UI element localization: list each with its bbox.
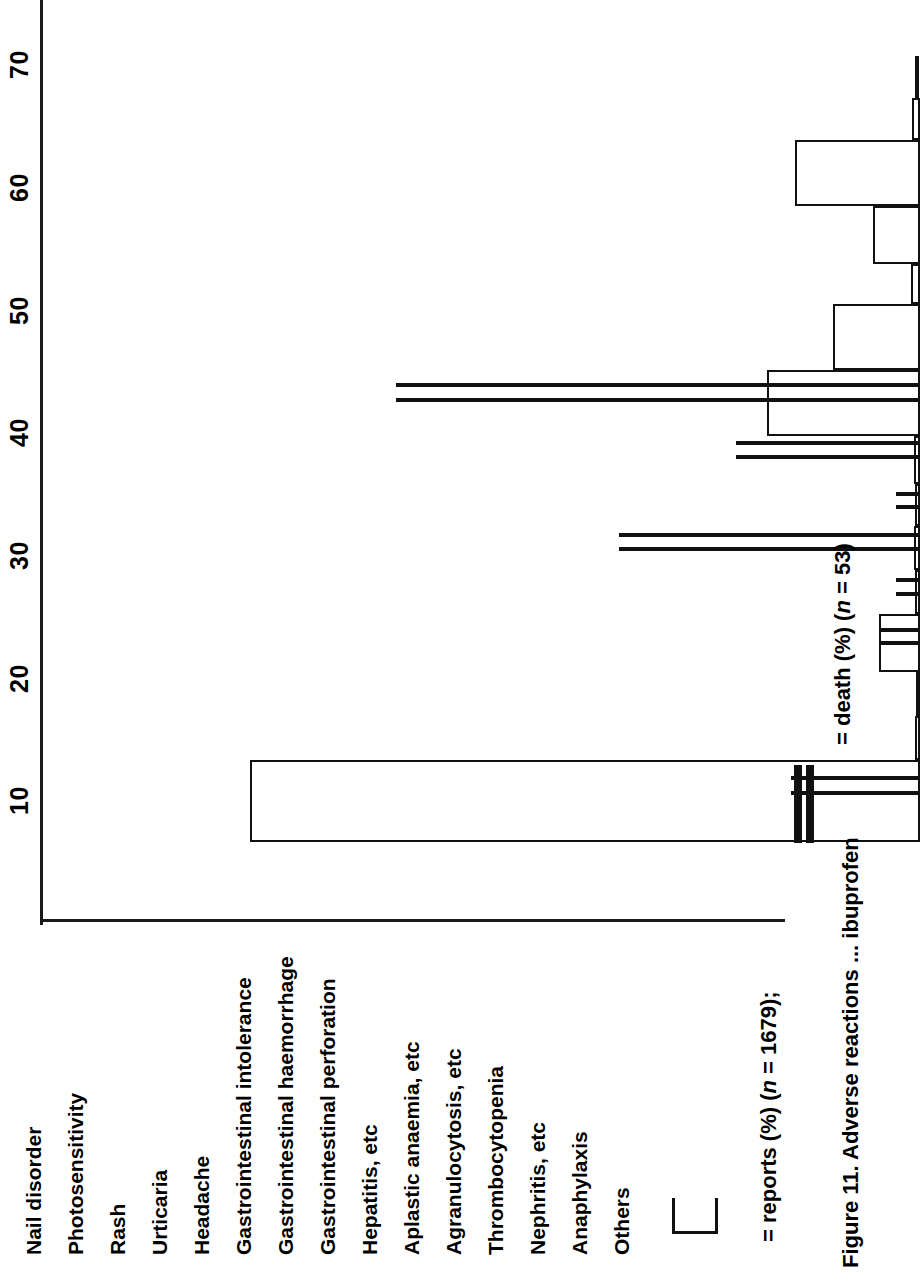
category-label-headache: Headache [190, 1156, 214, 1255]
bar-report-gi-intolerance [833, 304, 920, 370]
bar-report-photosensitivity [912, 98, 920, 140]
legend-reports-suffix: = 1679); [756, 991, 781, 1080]
category-label-hepatitis: Hepatitis, etc [358, 1124, 382, 1255]
bar-death-aplastic-anaemia [619, 533, 920, 537]
category-label-nephritis: Nephritis, etc [526, 1122, 550, 1255]
bar-death-hepatitis [896, 492, 920, 496]
category-label-aplastic-anaemia: Aplastic anaemia, etc [400, 1041, 424, 1255]
category-label-gi-intolerance: Gastrointestinal intolerance [232, 977, 256, 1255]
category-label-gi-haemorrhage: Gastrointestinal haemorrhage [274, 956, 298, 1255]
legend-label-reports: = reports (%) (n = 1679); [756, 991, 782, 1242]
bar-death-agranulocytosis-2 [896, 592, 920, 596]
figure-caption-text: Adverse reactions ... ibuprofen [838, 837, 863, 1160]
bar-death-gi-perforation-2 [736, 455, 920, 459]
bar-report-anaphylaxis [915, 716, 920, 760]
legend-death-n-italic: n [830, 600, 855, 613]
category-label-gi-perforation: Gastrointestinal perforation [316, 978, 340, 1255]
bar-report-urticaria [873, 206, 920, 264]
figure-caption-label: Figure 11. [838, 1165, 863, 1268]
bar-death-aplastic-anaemia-2 [619, 547, 920, 551]
category-label-rash: Rash [106, 1204, 130, 1255]
legend-marker-reports-icon [672, 1198, 718, 1234]
legend-label-death: = death (%) (n = 53) [830, 543, 856, 745]
category-label-others: Others [610, 1187, 634, 1255]
bar-report-headache [911, 264, 920, 304]
legend-reports-prefix: = reports (%) ( [756, 1093, 781, 1242]
bar-death-thrombocytopenia-2 [879, 641, 920, 645]
legend-death-suffix: = 53) [830, 543, 855, 600]
bar-death-gi-haemorrhage-2 [396, 398, 920, 402]
bar-death-thrombocytopenia [879, 628, 920, 632]
bar-death-agranulocytosis [896, 578, 920, 582]
category-label-nail-disorder: Nail disorder [22, 1127, 46, 1255]
bar-death-gi-haemorrhage [396, 383, 920, 387]
bar-death-gi-perforation [736, 441, 920, 445]
bar-report-rash [795, 140, 920, 206]
bar-report-nail-disorder [915, 56, 919, 98]
bar-death-hepatitis-2 [896, 505, 920, 509]
legend-death-prefix: = death (%) ( [830, 614, 855, 745]
legend-marker-death-icon [794, 765, 802, 843]
legend-marker-death-icon-2 [806, 765, 814, 843]
category-label-urticaria: Urticaria [148, 1170, 172, 1255]
bars-layer [0, 0, 856, 925]
category-label-photosensitivity: Photosensitivity [64, 1093, 88, 1255]
bar-report-gi-haemorrhage [767, 370, 920, 436]
category-label-thrombocytopenia: Thrombocytopenia [484, 1066, 508, 1255]
bar-report-others [250, 760, 920, 842]
category-label-agranulocytosis: Agranulocytosis, etc [442, 1048, 466, 1255]
legend-reports-n-italic: n [756, 1080, 781, 1093]
bar-report-nephritis [916, 672, 920, 716]
category-label-anaphylaxis: Anaphylaxis [568, 1131, 592, 1255]
figure-caption: Figure 11. Adverse reactions ... ibuprof… [838, 837, 864, 1268]
